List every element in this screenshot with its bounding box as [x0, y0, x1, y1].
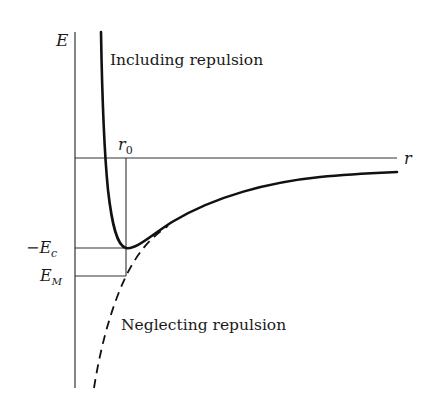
including-repulsion-label: Including repulsion	[110, 51, 263, 69]
r-axis-label: r	[404, 149, 413, 168]
energy-diagram: E r r0 −Ec EM Including repulsion Neglec…	[0, 0, 421, 415]
em-label: EM	[39, 266, 63, 287]
neglecting-repulsion-curve	[94, 226, 168, 388]
neglecting-repulsion-label: Neglecting repulsion	[121, 316, 286, 334]
r0-label: r0	[118, 135, 133, 157]
ec-label: −Ec	[26, 238, 57, 260]
energy-axis-label: E	[55, 30, 69, 50]
